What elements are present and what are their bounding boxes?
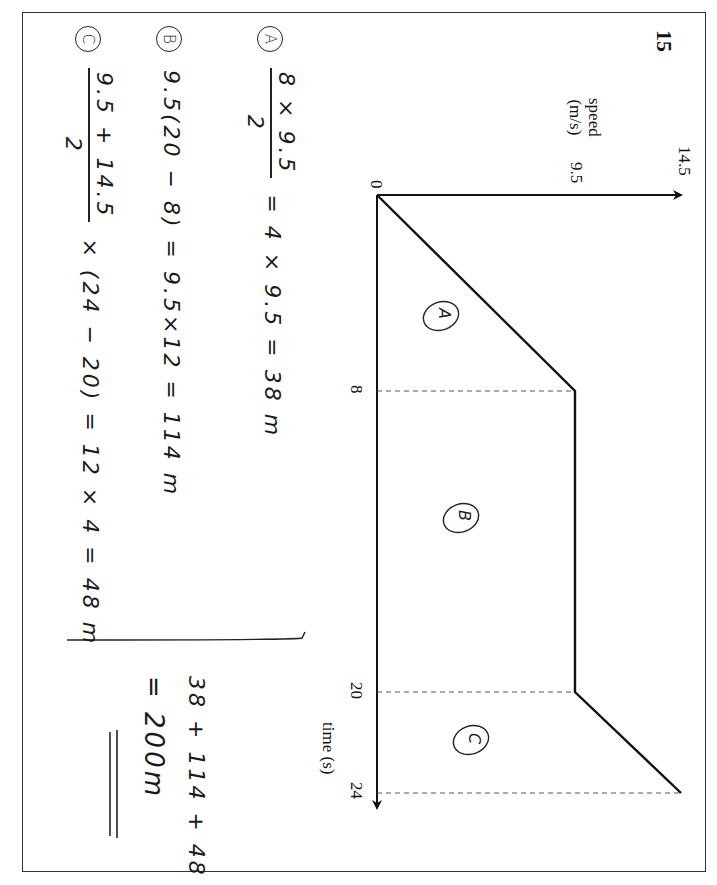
region-a-label: A [435,308,454,319]
x-tick-8: 8 [346,385,365,394]
working-a: A 8 × 9.5 2 = 4 × 9.5 = 38 m [243,26,299,438]
exam-page: 15 speed (m/s) 14.5 9.5 0 8 20 2 [0,0,717,885]
speed-time-line [377,195,681,793]
x-tick-0: 0 [366,180,385,189]
x-tick-20: 20 [346,682,365,699]
region-c-label: C [465,733,484,744]
working-c-denominator: 2 [61,68,88,222]
y-axis-label-line2: (m/s) [566,99,585,135]
working-a-marker: A [257,26,283,52]
working-b: B 9.5(20 − 8) = 9.5×12 = 114 m [156,26,184,497]
y-axis-label-line1: speed [585,98,604,137]
x-tick-24: 24 [346,782,365,799]
working-a-denominator: 2 [243,68,270,178]
working-c: C 9.5 + 14.5 2 × (24 − 20) = 12 × 4 = 48… [61,26,117,646]
working-a-result: = 4 × 9.5 = 38 m [260,194,285,438]
working-b-expression: 9.5(20 − 8) = 9.5×12 = 114 m [159,70,184,497]
y-axis-label: speed (m/s) [566,98,603,137]
working-c-marker: C [75,26,101,52]
working-a-fraction: 8 × 9.5 2 [243,68,299,178]
total-result: = 200m [139,676,169,799]
working-a-numerator: 8 × 9.5 [270,68,299,178]
y-tick-9-5: 9.5 [566,162,585,183]
working-c-numerator: 9.5 + 14.5 [88,68,117,222]
working-b-marker: B [156,26,182,52]
y-tick-14-5: 14.5 [674,146,693,176]
working-c-fraction: 9.5 + 14.5 2 [61,68,117,222]
x-axis-label: time (s) [318,722,337,774]
region-b-label: B [455,510,474,521]
working-c-result: × (24 − 20) = 12 × 4 = 48 m [78,238,103,646]
total-sum: 38 + 114 + 48 [184,676,209,878]
